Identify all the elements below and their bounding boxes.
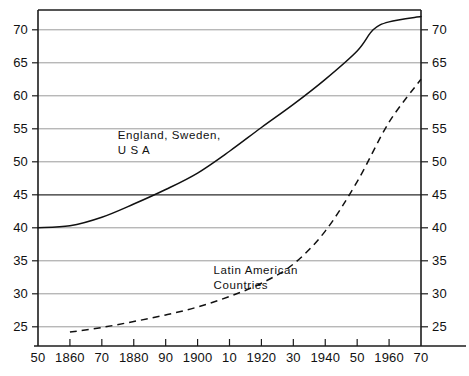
x-axis-label-1890: 90 <box>158 350 173 365</box>
y-axis-label-left-55: 55 <box>13 121 28 136</box>
x-axis-label-1940: 1940 <box>310 350 340 365</box>
y-axis-labels-right: 25303540455055606570 <box>432 22 447 334</box>
annot-latin: Latin AmericanCountries <box>214 264 298 291</box>
x-axis-label-1960: 1960 <box>374 350 404 365</box>
y-axis-label-right-55: 55 <box>432 121 447 136</box>
annot-latin-line-2: Countries <box>214 279 269 291</box>
y-axis-label-left-45: 45 <box>13 187 28 202</box>
y-axis-label-right-30: 30 <box>432 286 447 301</box>
y-axis-label-right-65: 65 <box>432 55 447 70</box>
series-annotations-group: England, Sweden,U S ALatin AmericanCount… <box>118 129 298 291</box>
y-axis-label-right-60: 60 <box>432 88 447 103</box>
annot-developed-line-1: England, Sweden, <box>118 129 221 141</box>
series-line-england-sweden-usa <box>38 17 421 228</box>
x-tickmarks-group <box>70 339 389 346</box>
line-chart-canvas: 25303540455055606570 2530354045505560657… <box>0 0 469 376</box>
axis-frame-group <box>34 10 466 346</box>
x-axis-labels: 50186070188090190010192030194050196070 <box>31 350 429 365</box>
x-axis-label-1920: 1920 <box>247 350 277 365</box>
y-axis-label-right-45: 45 <box>432 187 447 202</box>
annot-developed: England, Sweden,U S A <box>118 129 221 156</box>
y-axis-label-right-25: 25 <box>432 319 447 334</box>
chart-container: 25303540455055606570 2530354045505560657… <box>0 0 469 376</box>
y-axis-labels-left: 25303540455055606570 <box>13 22 28 334</box>
y-axis-label-left-30: 30 <box>13 286 28 301</box>
x-axis-label-1950: 50 <box>350 350 365 365</box>
x-axis-label-1900: 1900 <box>183 350 213 365</box>
x-axis-label-1930: 30 <box>286 350 301 365</box>
x-axis-label-1870: 70 <box>94 350 109 365</box>
y-axis-label-left-70: 70 <box>13 22 28 37</box>
annot-developed-line-2: U S A <box>118 144 150 156</box>
y-axis-label-left-50: 50 <box>13 154 28 169</box>
y-axis-label-left-35: 35 <box>13 253 28 268</box>
y-axis-label-left-25: 25 <box>13 319 28 334</box>
x-axis-label-1850: 50 <box>31 350 46 365</box>
y-axis-label-left-65: 65 <box>13 55 28 70</box>
y-axis-label-right-35: 35 <box>432 253 447 268</box>
x-axis-label-1860: 1860 <box>55 350 85 365</box>
x-axis-label-1880: 1880 <box>119 350 149 365</box>
y-axis-label-left-60: 60 <box>13 88 28 103</box>
y-axis-label-right-70: 70 <box>432 22 447 37</box>
x-axis-label-1910: 10 <box>222 350 237 365</box>
x-axis-label-1970: 70 <box>414 350 429 365</box>
y-axis-label-left-40: 40 <box>13 220 28 235</box>
y-axis-label-right-40: 40 <box>432 220 447 235</box>
annot-latin-line-1: Latin American <box>214 264 298 276</box>
y-axis-label-right-50: 50 <box>432 154 447 169</box>
